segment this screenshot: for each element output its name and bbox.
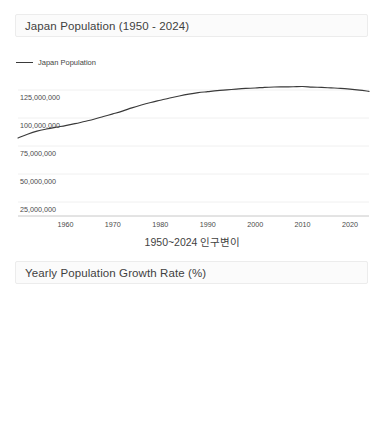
- y-axis-tick-label: 50,000,000: [20, 177, 56, 186]
- chart-caption: 1950~2024 인구변이: [0, 234, 385, 249]
- x-axis-tick-label: 1970: [105, 220, 121, 229]
- x-axis-tick-label: 2020: [342, 220, 358, 229]
- legend-line-swatch-icon: [16, 62, 33, 63]
- x-axis-tick-label: 1990: [200, 220, 216, 229]
- chart2-title-box: Yearly Population Growth Rate (%): [15, 261, 368, 284]
- chart1-title-box: Japan Population (1950 - 2024): [15, 14, 368, 37]
- y-axis-tick-label: 25,000,000: [20, 205, 56, 214]
- chart2-title: Yearly Population Growth Rate (%): [25, 267, 206, 279]
- series-line: [18, 87, 369, 138]
- chart1-title: Japan Population (1950 - 2024): [25, 20, 189, 32]
- x-axis-tick-label: 1980: [152, 220, 168, 229]
- x-axis-tick-label: 2000: [247, 220, 263, 229]
- x-axis-tick-label: 1960: [57, 220, 73, 229]
- growth-rate-chart-panel: Yearly Population Growth Rate (%) Yearly…: [0, 261, 385, 434]
- y-axis-tick-label: 125,000,000: [20, 93, 60, 102]
- chart1-legend: Japan Population: [16, 58, 96, 67]
- population-chart-panel: Japan Population (1950 - 2024) Japan Pop…: [0, 14, 385, 224]
- chart1-plot-area: 25,000,00050,000,00075,000,000100,000,00…: [0, 70, 385, 236]
- x-axis-tick-label: 2010: [295, 220, 311, 229]
- y-axis-tick-label: 75,000,000: [20, 149, 56, 158]
- chart1-legend-label: Japan Population: [38, 58, 96, 67]
